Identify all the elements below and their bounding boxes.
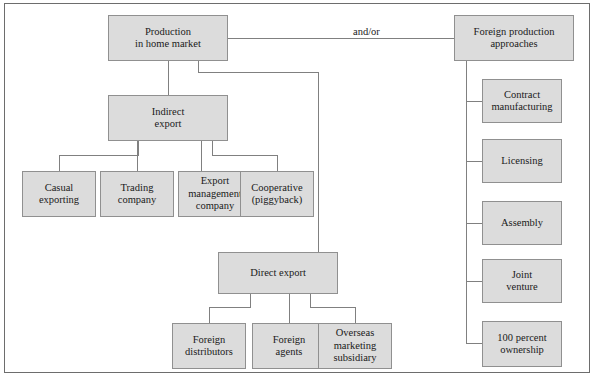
node-label-licensing: Licensing: [501, 155, 542, 167]
node-assembly[interactable]: Assembly: [482, 201, 562, 245]
node-label-contract-manufacturing: Contract manufacturing: [491, 89, 552, 114]
node-casual-exporting[interactable]: Casual exporting: [22, 171, 96, 217]
node-joint-venture[interactable]: Joint venture: [482, 259, 562, 303]
connector-indirect-to-casual-exporting: [59, 141, 138, 171]
page-caption-clipped: [28, 375, 568, 384]
node-contract-manufacturing[interactable]: Contract manufacturing: [482, 79, 562, 123]
node-label-indirect-export: Indirect export: [152, 106, 185, 131]
node-ownership-100-percent[interactable]: 100 percent ownership: [482, 321, 562, 367]
node-label-cooperative-piggyback: Cooperative (piggyback): [251, 182, 302, 207]
node-label-ownership-100-percent: 100 percent ownership: [497, 332, 546, 357]
node-foreign-agents[interactable]: Foreign agents: [252, 323, 326, 369]
connector-direct-to-foreign-distributors: [209, 294, 250, 323]
node-label-direct-export: Direct export: [250, 267, 306, 279]
connector-production-to-direct-export: [198, 61, 318, 252]
node-label-foreign-distributors: Foreign distributors: [185, 334, 233, 359]
node-label-trading-company: Trading company: [118, 182, 157, 207]
node-label-assembly: Assembly: [501, 217, 543, 229]
node-label-joint-venture: Joint venture: [506, 269, 538, 294]
connector-direct-to-overseas-subsidiary: [310, 294, 355, 323]
diagram-canvas: Production in home marketForeign product…: [0, 0, 595, 385]
node-cooperative-piggyback[interactable]: Cooperative (piggyback): [240, 171, 314, 217]
node-foreign-production-approaches[interactable]: Foreign production approaches: [454, 15, 574, 61]
node-production-home-market[interactable]: Production in home market: [108, 15, 228, 61]
node-trading-company[interactable]: Trading company: [100, 171, 174, 217]
node-label-foreign-agents: Foreign agents: [273, 334, 306, 359]
annotation-and-or: and/or: [350, 26, 383, 37]
node-label-production-home-market: Production in home market: [135, 26, 201, 51]
node-overseas-marketing-subsidiary[interactable]: Overseas marketing subsidiary: [318, 323, 392, 369]
node-foreign-distributors[interactable]: Foreign distributors: [172, 323, 246, 369]
node-label-casual-exporting: Casual exporting: [39, 182, 79, 207]
node-licensing[interactable]: Licensing: [482, 139, 562, 183]
connector-indirect-to-cooperative: [212, 141, 277, 171]
node-label-foreign-production-approaches: Foreign production approaches: [474, 26, 555, 51]
node-indirect-export[interactable]: Indirect export: [108, 95, 228, 141]
node-label-export-management-company: Export management company: [188, 175, 242, 212]
node-label-overseas-marketing-subsidiary: Overseas marketing subsidiary: [333, 327, 376, 364]
node-direct-export[interactable]: Direct export: [218, 252, 338, 294]
